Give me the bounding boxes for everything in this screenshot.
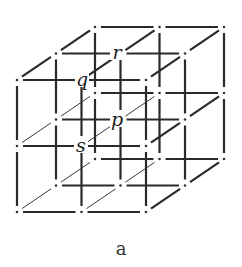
lattice-point — [184, 184, 187, 187]
lattice-point — [158, 26, 161, 29]
depth-edge — [125, 30, 154, 50]
point-label-p: p — [111, 108, 123, 130]
cubic-lattice-diagram: rqps a — [0, 0, 242, 267]
lattice-point — [16, 145, 19, 148]
lattice-point — [16, 211, 19, 214]
depth-edge — [61, 96, 90, 116]
depth-edge — [61, 30, 90, 50]
lattice-point — [145, 211, 148, 214]
lattice-point — [145, 145, 148, 148]
lattice-point — [55, 184, 58, 187]
lattice-point — [158, 158, 161, 161]
lattice-point — [55, 118, 58, 121]
depth-edge — [151, 189, 180, 209]
depth-edge — [151, 57, 180, 77]
depth-edge — [151, 123, 180, 143]
lattice-point — [158, 92, 161, 95]
lattice-point — [80, 211, 83, 214]
lattice-point — [119, 184, 122, 187]
depth-edge — [125, 162, 154, 182]
lattice-point — [184, 118, 187, 121]
figure-caption: a — [116, 238, 127, 259]
lattice-point — [16, 79, 19, 82]
lattice-point — [223, 92, 226, 95]
depth-edge — [190, 30, 219, 50]
lattice-point — [94, 26, 97, 29]
depth-edge — [86, 189, 115, 209]
depth-edge — [22, 123, 51, 143]
depth-edge — [22, 57, 51, 77]
depth-edge — [190, 162, 219, 182]
lattice-point — [94, 158, 97, 161]
depth-edge — [22, 189, 51, 209]
lattice-point — [145, 79, 148, 82]
lattice-point — [184, 52, 187, 55]
point-label-q: q — [76, 68, 88, 90]
lattice-point — [55, 52, 58, 55]
depth-edge — [61, 162, 90, 182]
point-label-s: s — [76, 134, 86, 156]
lattice-point — [223, 26, 226, 29]
depth-edge — [125, 96, 154, 116]
lattice-point — [94, 92, 97, 95]
lattice-point — [223, 158, 226, 161]
depth-edge — [190, 96, 219, 116]
